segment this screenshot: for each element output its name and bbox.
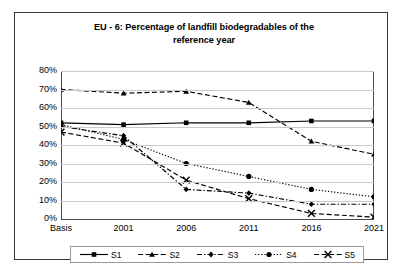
legend-marker-x-icon [313, 249, 343, 260]
legend-item-s3[interactable]: S3 [196, 249, 238, 260]
chart-legend: S1S2S3S4S5 [70, 246, 364, 263]
series-s3 [61, 124, 374, 208]
x-axis-tick-label: 2006 [156, 223, 216, 233]
series-s5 [61, 129, 374, 219]
legend-label: S4 [286, 250, 296, 260]
y-axis-tick-label: 0% [17, 213, 57, 223]
x-axis-tick-label: 2016 [281, 223, 341, 233]
chart-container: EU - 6: Percentage of landfill biodegrad… [14, 12, 388, 260]
gridline [61, 90, 374, 91]
legend-item-s4[interactable]: S4 [254, 249, 296, 260]
legend-item-s2[interactable]: S2 [137, 249, 179, 260]
y-axis-tick-label: 10% [17, 195, 57, 205]
legend-label: S1 [111, 250, 121, 260]
chart-title: EU - 6: Percentage of landfill biodegrad… [63, 21, 345, 46]
y-axis-tick-label: 40% [17, 139, 57, 149]
gridline [61, 201, 374, 202]
y-axis-tick-label: 50% [17, 121, 57, 131]
y-axis-tick-label: 60% [17, 102, 57, 112]
legend-item-s1[interactable]: S1 [79, 249, 121, 260]
legend-marker-triangle-icon [137, 249, 167, 260]
gridline [61, 182, 374, 183]
gridline [61, 71, 374, 72]
x-axis-tick-label: 2021 [344, 223, 404, 233]
x-axis-tick-label: 2001 [94, 223, 154, 233]
gridline [61, 164, 374, 165]
x-axis-tick-label: Basis [31, 223, 91, 233]
legend-marker-square-icon [79, 249, 109, 260]
gridline [61, 108, 374, 109]
legend-label: S2 [169, 250, 179, 260]
plot-area [61, 71, 374, 219]
y-axis-tick-label: 30% [17, 158, 57, 168]
y-axis: 80%70%60%50%40%30%20%10%0% [15, 71, 57, 219]
series-s4 [61, 122, 374, 199]
chart-title-line-1: EU - 6: Percentage of landfill biodegrad… [63, 21, 345, 34]
legend-marker-circle-icon [254, 249, 284, 260]
y-axis-tick-label: 80% [17, 65, 57, 75]
x-axis: Basis20012006201120162021 [61, 223, 374, 237]
gridline [61, 127, 374, 128]
y-axis-tick-label: 20% [17, 176, 57, 186]
legend-item-s5[interactable]: S5 [313, 249, 355, 260]
x-axis-tick-label: 2011 [219, 223, 279, 233]
y-axis-tick-label: 70% [17, 84, 57, 94]
legend-label: S5 [345, 250, 355, 260]
legend-marker-diamond-icon [196, 249, 226, 260]
legend-label: S3 [228, 250, 238, 260]
series-s2 [61, 87, 374, 157]
gridline [61, 145, 374, 146]
chart-title-line-2: reference year [63, 34, 345, 47]
